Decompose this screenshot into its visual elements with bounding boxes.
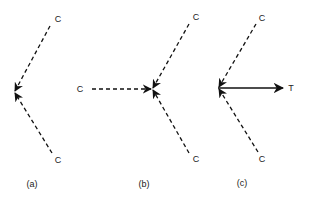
- label-a-bottom-c: C: [55, 156, 62, 165]
- label-b-top-c: C: [193, 13, 200, 22]
- force-diagram-canvas: [0, 0, 309, 201]
- arrow-c-top-dashed: [219, 24, 256, 87]
- panel-b: [92, 24, 189, 153]
- caption-b: (b): [139, 180, 150, 189]
- arrow-a-bottom-dashed: [15, 93, 52, 153]
- label-c-t: T: [288, 84, 294, 93]
- caption-c: (c): [237, 179, 248, 188]
- label-c-top-c: C: [259, 14, 266, 23]
- panel-c: [218, 24, 283, 152]
- arrow-c-bottom-dashed: [219, 89, 258, 152]
- caption-a: (a): [27, 180, 38, 189]
- arrow-a-top-dashed: [15, 26, 50, 91]
- label-b-left-c: C: [77, 85, 84, 94]
- label-a-top-c: C: [55, 15, 62, 24]
- label-b-bottom-c: C: [193, 155, 200, 164]
- arrow-b-top-dashed: [153, 24, 189, 88]
- arrow-b-bottom-dashed: [153, 90, 189, 153]
- label-c-bottom-c: C: [259, 155, 266, 164]
- panel-a: [15, 26, 52, 153]
